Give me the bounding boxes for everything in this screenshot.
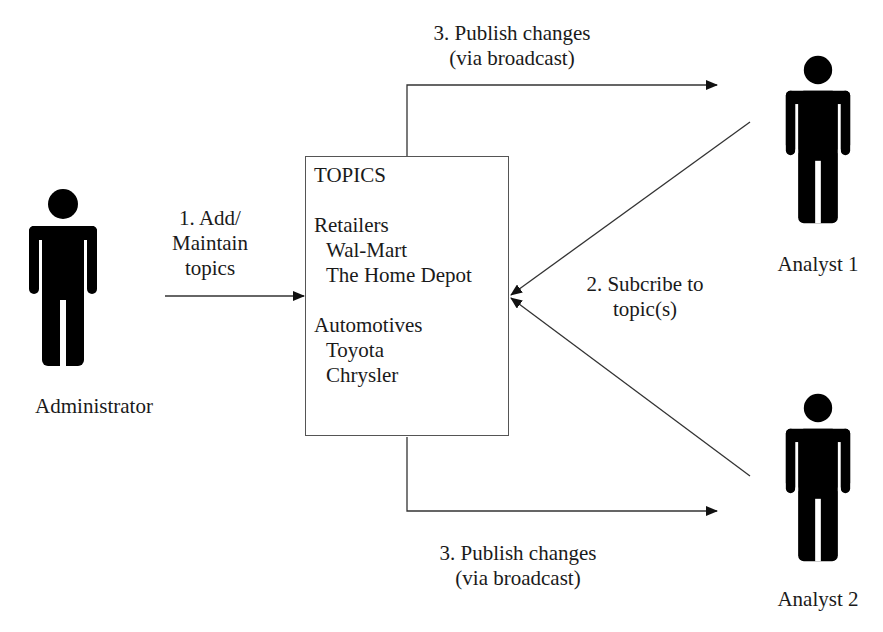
topic-group-label: Retailers [314, 213, 508, 238]
topic-item: Toyota [314, 338, 508, 363]
label-line: 1. Add/ [155, 206, 265, 231]
label-line: 2. Subcribe to [545, 272, 745, 297]
administrator-label: Administrator [14, 394, 174, 419]
label-line: (via broadcast) [412, 46, 612, 71]
topic-item: The Home Depot [314, 263, 508, 288]
topics-title: TOPICS [314, 163, 508, 188]
publish-bottom-arrow [407, 437, 717, 511]
publish-bottom-label: 3. Publish changes (via broadcast) [418, 541, 618, 591]
topic-item: Chrysler [314, 363, 508, 388]
pub-sub-diagram: TOPICS Retailers Wal-Mart The Home Depot… [0, 0, 883, 632]
label-line: topic(s) [545, 297, 745, 322]
label-line: (via broadcast) [418, 566, 618, 591]
person-icon [783, 50, 853, 230]
subscribe-arrow-analyst1 [511, 122, 750, 295]
analyst2-label: Analyst 2 [748, 587, 883, 612]
topic-group-automotives: Automotives Toyota Chrysler [314, 313, 508, 388]
person-icon [26, 188, 100, 368]
label-line: topics [155, 256, 265, 281]
topic-group-retailers: Retailers Wal-Mart The Home Depot [314, 213, 508, 288]
publish-top-label: 3. Publish changes (via broadcast) [412, 21, 612, 71]
label-line: 3. Publish changes [412, 21, 612, 46]
person-icon [783, 388, 853, 568]
topic-item: Wal-Mart [314, 238, 508, 263]
label-line: Maintain [155, 231, 265, 256]
subscribe-arrow-analyst2 [511, 298, 750, 476]
topics-box: TOPICS Retailers Wal-Mart The Home Depot… [305, 156, 509, 436]
label-line: 3. Publish changes [418, 541, 618, 566]
publish-top-arrow [407, 85, 717, 156]
analyst1-label: Analyst 1 [748, 252, 883, 277]
topic-group-label: Automotives [314, 313, 508, 338]
subscribe-label: 2. Subcribe to topic(s) [545, 272, 745, 322]
add-maintain-label: 1. Add/ Maintain topics [155, 206, 265, 281]
